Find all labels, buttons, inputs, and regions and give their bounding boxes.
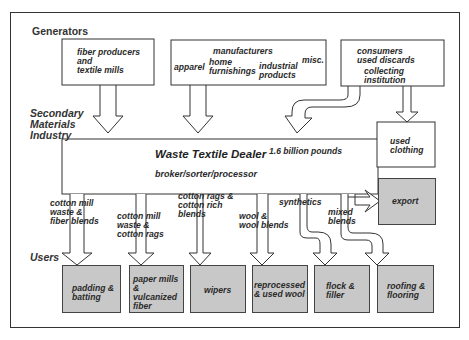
generator-misc: misc.	[302, 56, 324, 65]
generator-consumers: consumersused discards	[357, 47, 415, 65]
section-users: Users	[30, 252, 59, 263]
flow-cotton-mill-rags: cotton millwaste &cotton rags	[117, 212, 164, 239]
dealer-volume: 1.6 billion pounds	[269, 147, 342, 156]
user-paper: paper mills&vulcanizedfiber	[133, 275, 178, 311]
used-clothing: usedclothing	[390, 137, 423, 155]
section-generators: Generators	[32, 26, 88, 37]
flow-mixed: mixedblends	[328, 208, 356, 226]
user-roofing: roofing &flooring	[387, 282, 425, 300]
user-padding: padding &batting	[72, 284, 114, 302]
export-label: export	[392, 197, 418, 206]
section-secondary: SecondaryMaterialsIndustry	[30, 108, 84, 141]
user-flock: flock &filler	[326, 282, 355, 300]
flow-wool: wool &wool blends	[239, 212, 289, 230]
user-reprocessed: reprocessed& used wool	[254, 281, 305, 299]
dealer-title: Waste Textile Dealer	[155, 148, 266, 160]
generator-home-furnishings: homefurnishings	[209, 58, 256, 76]
user-wipers: wipers	[204, 286, 231, 295]
collecting-institution: collectinginstitution	[364, 67, 406, 85]
dealer-subtitle: broker/sorter/processor	[155, 170, 257, 179]
flow-cotton-mill-fiber: cotton millwaste &fiber blends	[50, 199, 99, 226]
flow-synthetics: synthetics	[279, 198, 322, 207]
generator-manufacturers: manufacturers	[213, 47, 273, 56]
generator-apparel: apparel	[174, 63, 205, 72]
generator-fiber-producers: fiber producersandtextile mills	[77, 48, 140, 75]
flow-cotton-rags-rich: cotton rags &cotton richblends	[178, 192, 233, 219]
generator-industrial-products: industrialproducts	[259, 62, 298, 80]
